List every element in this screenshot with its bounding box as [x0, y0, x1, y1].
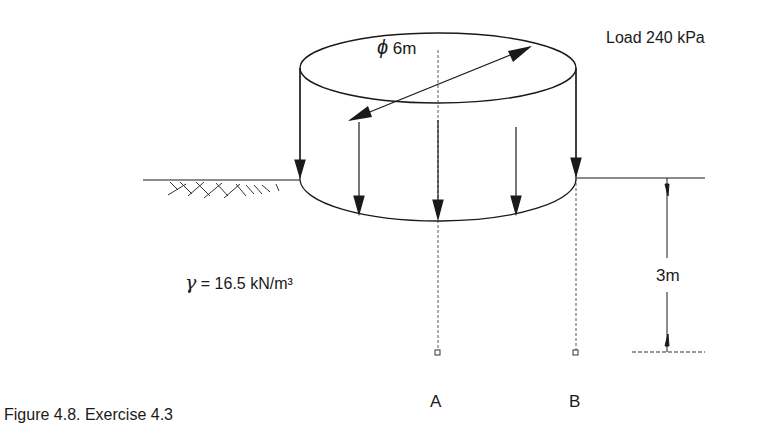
diameter-arrowhead-left — [348, 106, 372, 121]
foundation-diagram — [0, 0, 761, 440]
unit-weight-symbol: γ — [185, 271, 196, 293]
unit-weight-value: = 16.5 kN/m³ — [201, 275, 293, 292]
load-label: Load 240 kPa — [606, 29, 705, 47]
point-a-label: A — [430, 392, 441, 412]
point-b-label: B — [569, 392, 580, 412]
diameter-value: 6m — [393, 39, 417, 58]
point-b-marker — [573, 350, 578, 355]
depth-label: 3m — [656, 266, 680, 286]
ground-hatch — [168, 182, 279, 198]
diameter-label: ϕ 6m — [377, 36, 416, 59]
point-a-marker — [435, 350, 440, 355]
figure-caption: Figure 4.8. Exercise 4.3 — [4, 406, 173, 424]
unit-weight-label: γ = 16.5 kN/m³ — [185, 271, 293, 293]
diameter-arrowhead-right — [508, 46, 532, 62]
diameter-symbol: ϕ — [377, 36, 388, 58]
depth-dimension — [665, 178, 669, 352]
